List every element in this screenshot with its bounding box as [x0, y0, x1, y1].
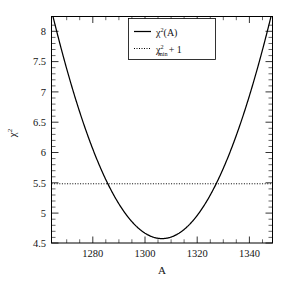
y-tick-label: 5.5	[33, 178, 46, 189]
y-tick-label: 5	[41, 208, 46, 219]
y-tick-label: 7	[41, 87, 46, 98]
y-tick-label: 7.5	[33, 56, 46, 67]
y-tick-label: 8	[41, 26, 46, 37]
x-tick-label: 1320	[187, 248, 208, 259]
x-tick-label: 1280	[82, 248, 103, 259]
y-axis-title-exponent: 2	[6, 128, 14, 132]
chart-figure: 8 7.5 7 6.5 6 5.5 5 4.5 1280 1300 1320 1…	[0, 0, 289, 281]
legend-subscript-min: min	[158, 50, 168, 57]
y-tick-label: 6.5	[33, 117, 46, 128]
x-tick-label: 1340	[239, 248, 260, 259]
y-axis-major-ticks	[52, 31, 59, 243]
svg-text:χ2: χ2	[6, 128, 18, 138]
y-axis-title: χ2	[6, 128, 18, 138]
x-axis-title: A	[158, 264, 166, 276]
y-axis-right-major-ticks	[266, 31, 273, 243]
legend: χ2(A) χ2min+ 1	[129, 19, 216, 60]
legend-exponent-2: 2	[160, 43, 163, 50]
x-axis-minor-ticks	[67, 239, 263, 243]
x-tick-label: 1300	[135, 248, 156, 259]
legend-suffix: + 1	[169, 44, 182, 55]
y-tick-labels: 8 7.5 7 6.5 6 5.5 5 4.5	[33, 26, 46, 249]
legend-argument: (A)	[164, 27, 178, 39]
y-tick-label: 6	[41, 147, 46, 158]
legend-label-chi2-of-a: χ2(A)	[155, 26, 177, 39]
y-tick-label: 4.5	[33, 238, 46, 249]
y-axis-minor-ticks	[52, 25, 56, 237]
y-axis-right-minor-ticks	[269, 25, 273, 237]
x-tick-labels: 1280 1300 1320 1340	[82, 248, 260, 259]
chi-square-plot: 8 7.5 7 6.5 6 5.5 5 4.5 1280 1300 1320 1…	[0, 0, 289, 281]
